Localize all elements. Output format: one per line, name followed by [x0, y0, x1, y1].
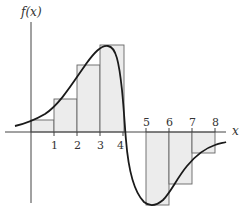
rect-0-1 [31, 120, 54, 132]
riemann-sum-chart: f(x) x 1 2 3 4 5 6 7 8 [0, 0, 247, 215]
tick-label-8: 8 [212, 116, 219, 129]
tick-label-5: 5 [143, 116, 150, 129]
riemann-rectangles [31, 45, 215, 205]
tick-label-3: 3 [97, 139, 104, 152]
tick-label-2: 2 [74, 139, 81, 152]
x-axis-label: x [232, 124, 239, 138]
tick-label-4: 4 [117, 139, 124, 152]
rect-2-3 [77, 65, 100, 132]
tick-label-6: 6 [166, 116, 173, 129]
rect-5-6 [146, 132, 169, 205]
y-axis-label: f(x) [20, 5, 42, 19]
tick-label-7: 7 [189, 116, 196, 129]
rect-3-4 [100, 45, 124, 132]
tick-label-1: 1 [51, 139, 58, 152]
